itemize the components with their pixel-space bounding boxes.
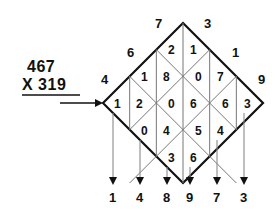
cell-r3c2-ones: 6: [190, 97, 197, 111]
cell-r1c1-ones: 1: [190, 43, 197, 57]
left-label-0: 4: [101, 72, 109, 87]
lattice-diagram-canvas: 467 X 319: [0, 0, 275, 210]
right-label-0: 1: [232, 45, 239, 60]
cell-r2c1-tens: 1: [141, 70, 148, 84]
top-label-1: 3: [204, 16, 211, 31]
answer-digit-1: 4: [136, 190, 144, 205]
cell-r3c3-ones: 3: [244, 97, 251, 111]
answer-digit-4: 7: [213, 190, 220, 205]
top-label-0: 7: [155, 16, 162, 31]
cell-r3c1-ones: 2: [136, 97, 143, 111]
cell-r4c2-tens: 5: [195, 124, 202, 138]
cell-r1c1-tens: 2: [168, 43, 175, 57]
problem-statement: 467 X 319: [22, 58, 80, 95]
cell-r4c1-ones: 4: [163, 124, 170, 138]
cell-r3c2-tens: 0: [168, 97, 175, 111]
cell-r5c1-tens: 3: [168, 151, 175, 165]
lattice-multiplication-figure: 467 X 319: [0, 0, 275, 210]
cell-r5c1-ones: 6: [190, 151, 197, 165]
right-arrow-icon: [60, 99, 103, 107]
cell-r4c2-ones: 4: [217, 124, 224, 138]
answer-digit-0: 1: [109, 190, 116, 205]
cell-r3c3-tens: 6: [222, 97, 229, 111]
cell-r2c2-ones: 7: [217, 70, 224, 84]
lattice-cell-dividers: [130, 23, 237, 183]
cell-r2c2-tens: 0: [195, 70, 202, 84]
answer-digit-2: 8: [163, 190, 170, 205]
cell-r2c1-ones: 8: [163, 70, 170, 84]
multiplicand-text: 467: [27, 58, 55, 75]
left-label-1: 6: [127, 45, 134, 60]
answer-digit-3: 9: [186, 190, 193, 205]
right-label-1: 9: [258, 72, 265, 87]
answer-row: 1 4 8 9 7 3: [109, 190, 247, 205]
answer-digit-5: 3: [240, 190, 247, 205]
multiplier-text: X 319: [22, 76, 66, 93]
cell-r3c1-tens: 1: [114, 97, 121, 111]
cell-r4c1-tens: 0: [141, 124, 148, 138]
